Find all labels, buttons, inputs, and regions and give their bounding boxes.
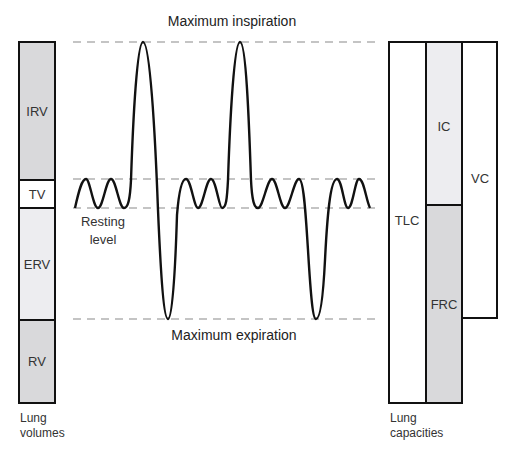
max-inspiration-label: Maximum inspiration [168,13,296,29]
breathing-waveform [75,42,370,319]
max-expiration-label: Maximum expiration [171,327,296,343]
ic-label: IC [438,119,451,134]
reference-lines [73,42,375,319]
lung-volumes-caption-line1: Lung [20,411,47,425]
resting-level-label-line1: Resting [81,214,125,229]
resting-level-label-line2: level [90,232,117,247]
lung-capacities-caption-line1: Lung [390,411,417,425]
erv-label: ERV [24,257,51,272]
spirometry-diagram: Maximum inspiration Maximum expiration R… [0,0,517,454]
frc-label: FRC [431,297,458,312]
lung-capacities-caption-line2: capacities [390,426,443,440]
lung-volumes-bar [19,42,55,403]
tv-label: TV [29,187,46,202]
rv-label: RV [28,354,46,369]
tlc-label: TLC [395,213,420,228]
irv-label: IRV [26,104,48,119]
vc-label: VC [471,171,489,186]
lung-volumes-caption-line2: volumes [20,426,65,440]
